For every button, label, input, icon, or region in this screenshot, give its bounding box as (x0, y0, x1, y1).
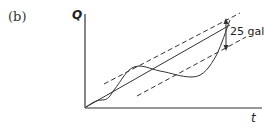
diagram-canvas (0, 0, 266, 130)
cumulative-curve (86, 20, 230, 107)
mean-line (86, 25, 230, 107)
lower-bound-line (137, 37, 246, 96)
